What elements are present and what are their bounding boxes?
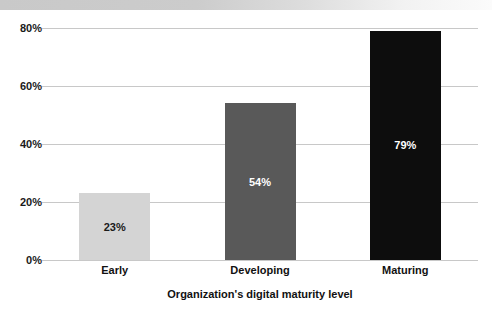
cut-off-title-band: [0, 0, 492, 10]
y-axis-tick-label: 60%: [0, 80, 42, 92]
gridline-80: [42, 28, 478, 29]
y-axis-tick-label: 40%: [0, 138, 42, 150]
bar-maturing[interactable]: 79%: [370, 31, 441, 260]
bar-value-label: 23%: [79, 221, 150, 233]
bar-value-label: 54%: [225, 176, 296, 188]
x-axis-title: Organization's digital maturity level: [42, 288, 478, 300]
y-axis-tick-label: 20%: [0, 196, 42, 208]
bar-early[interactable]: 23%: [79, 193, 150, 260]
y-axis: 0%20%40%60%80%: [0, 10, 42, 270]
y-axis-tick-label: 80%: [0, 22, 42, 34]
y-axis-tick-label: 0%: [0, 254, 42, 266]
bar-developing[interactable]: 54%: [225, 103, 296, 260]
x-axis-category-early: Early: [42, 264, 187, 276]
plot-area: 23%54%79%: [42, 10, 478, 270]
x-axis-category-developing: Developing: [187, 264, 332, 276]
gridline-0: [42, 260, 478, 261]
bar-value-label: 79%: [370, 139, 441, 151]
bar-chart: 0%20%40%60%80% 23%54%79% Organization's …: [0, 10, 492, 313]
x-axis-category-maturing: Maturing: [333, 264, 478, 276]
